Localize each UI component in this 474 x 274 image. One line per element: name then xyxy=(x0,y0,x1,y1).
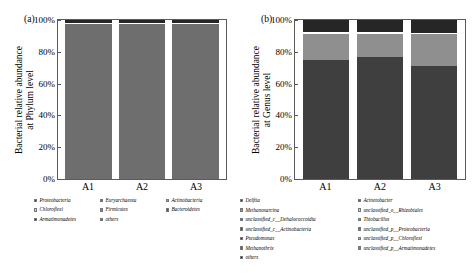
legend-a-item-0: Proteobacteria xyxy=(34,198,98,203)
bar-b-A2-seg-mid xyxy=(357,34,404,58)
legend-a-label-7: others xyxy=(105,217,118,222)
legend-a-label-3: Chloroflexi xyxy=(39,207,62,212)
panel-b-xlabels: A1 A2 A3 xyxy=(294,181,466,192)
legend-b-item-3: unclassified_o__Rhizobiales xyxy=(358,208,472,213)
legend-b-item-4: unclassified_c__Dehalococcoidia xyxy=(240,217,354,222)
legend-a-item-3: Chloroflexi xyxy=(34,207,98,212)
bar-b-A3-seg-delftia xyxy=(411,66,458,179)
panel-a-ytick-3: 40% xyxy=(39,110,59,120)
legend-a-item-2: Actinobacteria xyxy=(166,198,230,203)
legend-a-label-5: Bacteroidetes xyxy=(171,207,199,212)
legend-b-label-5: Thiobacillus xyxy=(363,217,389,222)
legend-a-label-1: Euryarchaeota xyxy=(105,198,136,203)
panel-b-xlabel-A1: A1 xyxy=(302,181,350,192)
legend-b-swatch-12 xyxy=(240,256,243,259)
legend-b-swatch-7 xyxy=(358,227,361,230)
panel-b-ytick-3: 40% xyxy=(276,110,296,120)
panel-b-xlabel-A2: A2 xyxy=(356,181,404,192)
legend-b-swatch-2 xyxy=(240,208,243,211)
panel-a-ylabel-line1: Bacterial relative abundance xyxy=(14,20,24,180)
panel-b-ylabel-line2: at Genus level xyxy=(262,20,272,180)
legend-b-label-4: unclassified_c__Dehalococcoidia xyxy=(245,217,315,222)
bar-b-A3-seg-mid xyxy=(411,34,458,66)
legend-b-swatch-1 xyxy=(358,199,361,202)
legend-a-label-4: Firmicutes xyxy=(105,207,127,212)
legend-a-label-6: Armatimonadetes xyxy=(39,217,76,222)
legend-b-item-0: Delftia xyxy=(240,198,354,203)
legend-b-label-9: unclassified_p__Chloroflexi xyxy=(363,236,422,241)
legend-b-swatch-5 xyxy=(358,218,361,221)
panel-a-ytick-5: 0% xyxy=(43,174,58,184)
bar-b-A2 xyxy=(357,20,404,179)
panel-b-ytick-2: 60% xyxy=(276,79,296,89)
legend-b-label-0: Delftia xyxy=(245,198,259,203)
legend-b-item-1: Acinetobacter xyxy=(358,198,472,203)
legend-b-item-7: unclassified_p__Proteobacteria xyxy=(358,227,472,232)
legend-b-label-10: Methanothrix xyxy=(245,246,273,251)
bar-b-A1 xyxy=(303,20,350,179)
bar-b-A3 xyxy=(411,20,458,179)
panel-a-xlabel-A2: A2 xyxy=(119,181,166,192)
legend-b-item-12: others xyxy=(240,255,354,260)
legend-a-swatch-4 xyxy=(100,208,103,211)
legend-a-label-0: Proteobacteria xyxy=(39,198,70,203)
panel-b: (b) Bacterial relative abundance at Genu… xyxy=(237,0,474,274)
bar-b-A2-seg-others xyxy=(357,20,404,32)
panel-a-ytick-0: 100% xyxy=(34,15,58,25)
bar-b-A1-seg-delftia xyxy=(303,60,350,179)
bar-b-A1-seg-others xyxy=(303,20,350,32)
figure-root: (a) Bacterial relative abundance at Phyl… xyxy=(0,0,474,274)
bar-a-A3-seg-main xyxy=(172,24,218,179)
panel-a-xlabels: A1 A2 A3 xyxy=(57,181,227,192)
legend-a-swatch-5 xyxy=(166,208,169,211)
panel-a: (a) Bacterial relative abundance at Phyl… xyxy=(0,0,237,274)
panel-a-xlabel-A1: A1 xyxy=(65,181,112,192)
bar-a-A1-seg-main xyxy=(65,24,111,179)
legend-a-swatch-7 xyxy=(100,218,103,221)
legend-b-label-1: Acinetobacter xyxy=(363,198,392,203)
panel-a-xlabel-A3: A3 xyxy=(173,181,220,192)
legend-b-item-11: unclassified_p__Armatimonadetes xyxy=(358,246,472,251)
panel-b-legend: Delftia Acinetobacter Methanosarcina unc… xyxy=(240,198,472,260)
panel-b-ytick-0: 100% xyxy=(271,15,295,25)
legend-b-label-11: unclassified_p__Armatimonadetes xyxy=(363,246,435,251)
legend-b-item-10: Methanothrix xyxy=(240,246,354,251)
legend-b-label-8: Pseudomonas xyxy=(245,236,274,241)
panel-b-ytick-4: 20% xyxy=(276,142,296,152)
legend-b-swatch-8 xyxy=(240,237,243,240)
panel-b-ytick-5: 0% xyxy=(280,174,295,184)
bar-a-A2 xyxy=(119,20,165,179)
bar-a-A3 xyxy=(172,20,218,179)
legend-a-item-6: Armatimonadetes xyxy=(34,217,98,222)
legend-a-label-2: Actinobacteria xyxy=(171,198,202,203)
legend-b-item-6: unclassified_c__Actinobacteria xyxy=(240,227,354,232)
legend-b-swatch-9 xyxy=(358,237,361,240)
legend-b-label-6: unclassified_c__Actinobacteria xyxy=(245,227,311,232)
legend-b-label-2: Methanosarcina xyxy=(245,208,279,213)
panel-a-bars xyxy=(58,20,226,179)
legend-a-item-4: Firmicutes xyxy=(100,207,164,212)
panel-a-ytick-4: 20% xyxy=(39,142,59,152)
legend-b-item-5: Thiobacillus xyxy=(358,217,472,222)
panel-b-plot-area: 100% 80% 60% 40% 20% 0% xyxy=(294,19,466,180)
bar-a-A2-seg-main xyxy=(119,24,165,179)
panel-b-ytick-1: 80% xyxy=(276,47,296,57)
legend-a-item-1: Euryarchaeota xyxy=(100,198,164,203)
legend-b-swatch-6 xyxy=(240,227,243,230)
panel-b-bars xyxy=(295,20,465,179)
panel-b-ylabel-line1: Bacterial relative abundance xyxy=(251,20,261,180)
legend-a-item-7: others xyxy=(100,217,164,222)
panel-a-plot-area: 100% 80% 60% 40% 20% 0% xyxy=(57,19,227,180)
bar-a-A1 xyxy=(65,20,111,179)
legend-b-item-2: Methanosarcina xyxy=(240,208,354,213)
legend-b-swatch-0 xyxy=(240,199,243,202)
legend-b-swatch-10 xyxy=(240,246,243,249)
legend-a-swatch-3 xyxy=(34,208,37,211)
legend-a-swatch-1 xyxy=(100,199,103,202)
legend-a-swatch-6 xyxy=(34,218,37,221)
panel-a-ytick-2: 60% xyxy=(39,79,59,89)
bar-b-A2-seg-delftia xyxy=(357,57,404,179)
bar-b-A3-seg-others xyxy=(411,20,458,33)
panel-a-ylabel-line2: at Phylum level xyxy=(25,20,35,180)
panel-a-ytick-1: 80% xyxy=(39,47,59,57)
